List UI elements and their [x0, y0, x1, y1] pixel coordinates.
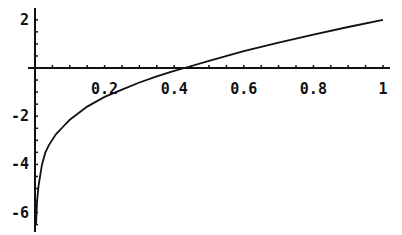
y-tick-label: -2 — [11, 107, 29, 125]
x-tick-label: 0.6 — [230, 80, 257, 98]
tick-labels: 0.20.40.60.812-2-4-6 — [11, 11, 388, 222]
x-tick-label: 0.2 — [91, 80, 118, 98]
x-tick-label: 0.4 — [161, 80, 188, 98]
data-line — [36, 20, 383, 225]
y-tick-label: -6 — [11, 204, 29, 222]
ticks — [35, 20, 383, 225]
x-tick-label: 0.8 — [300, 80, 327, 98]
x-tick-label: 1 — [378, 80, 387, 98]
y-tick-label: 2 — [20, 11, 29, 29]
plot-area: 0.20.40.60.812-2-4-6 — [0, 0, 402, 235]
axes — [28, 8, 390, 232]
y-tick-label: -4 — [11, 155, 29, 173]
